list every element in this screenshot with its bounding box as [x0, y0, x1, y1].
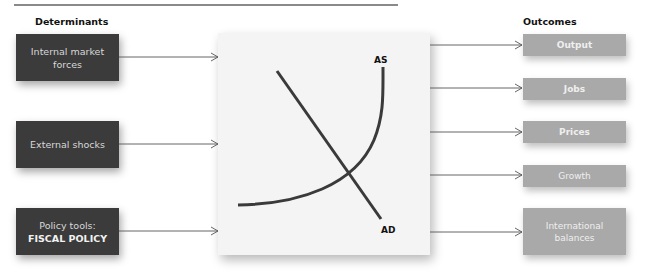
as-label: AS — [374, 55, 387, 65]
input-arrows — [119, 53, 218, 235]
output-arrows — [430, 41, 522, 236]
diagram-overlay: AS AD — [0, 0, 648, 279]
ad-curve — [277, 71, 381, 219]
ad-label: AD — [381, 225, 395, 235]
as-curve — [238, 67, 383, 205]
